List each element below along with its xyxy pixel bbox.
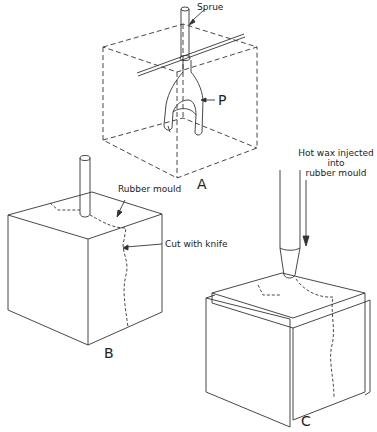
label-cut-with-knife: Cut with knife [165,239,227,249]
diagram-drawing [0,0,377,432]
label-panel-a: A [197,176,207,192]
panel-c-mould [206,170,370,427]
label-hot-wax: Hot wax injected into rubber mould [296,148,376,178]
hot-wax-line-2: into [296,158,376,168]
sprue-rod [180,7,190,61]
label-panel-b: B [104,345,114,361]
hot-wax-line-1: Hot wax injected [296,148,376,158]
diagram-canvas: Sprue P A Rubber mould Cut with knife B … [0,0,377,432]
hot-wax-line-3: rubber mould [296,168,376,178]
label-rubber-mould: Rubber mould [118,184,181,194]
label-panel-c: C [301,413,311,429]
panel-a-dashed-box [103,24,257,178]
label-pattern-p: P [218,92,226,108]
label-sprue: Sprue [197,2,223,12]
